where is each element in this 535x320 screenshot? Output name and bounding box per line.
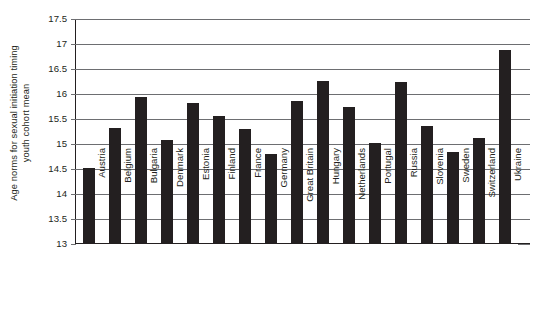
y-tick-label: 15 xyxy=(0,138,67,149)
y-tick-mark xyxy=(71,219,76,220)
x-tick-label: Switzerland xyxy=(484,148,500,248)
y-tick-label: 16.5 xyxy=(0,63,67,74)
x-tick-label: Sweden xyxy=(458,148,474,248)
x-tick-label: Germany xyxy=(276,148,292,248)
y-tick-mark xyxy=(71,94,76,95)
y-tick-mark-right xyxy=(518,69,530,70)
y-tick-label: 15.5 xyxy=(0,113,67,124)
x-tick-label: Austria xyxy=(94,148,110,248)
y-tick-label: 13 xyxy=(0,238,67,249)
x-tick-label: Estonia xyxy=(198,148,214,248)
y-axis-line xyxy=(75,19,76,244)
x-tick-label: Bulgaria xyxy=(146,148,162,248)
x-tick-label: Russia xyxy=(406,148,422,248)
y-tick-mark xyxy=(71,194,76,195)
gridline xyxy=(76,44,518,45)
y-tick-mark xyxy=(71,19,76,20)
x-tick-label: Portugal xyxy=(380,148,396,248)
y-tick-mark-right xyxy=(518,19,530,20)
y-tick-mark xyxy=(71,144,76,145)
x-tick-labels: AustriaBelgiumBulgariaDenmarkEstoniaFinl… xyxy=(76,248,518,320)
y-tick-mark-right xyxy=(518,44,530,45)
y-tick-mark xyxy=(71,69,76,70)
x-tick-label: Ukraine xyxy=(510,148,526,248)
x-tick-label: Netherlands xyxy=(354,148,370,248)
x-tick-label: Slovenia xyxy=(432,148,448,248)
y-tick-mark xyxy=(71,119,76,120)
gridline xyxy=(76,19,518,20)
y-tick-mark xyxy=(71,44,76,45)
y-tick-label: 17.5 xyxy=(0,13,67,24)
y-tick-mark-right xyxy=(518,144,530,145)
x-tick-label: Belgium xyxy=(120,148,136,248)
x-tick-label: Finland xyxy=(224,148,240,248)
x-tick-label: Denmark xyxy=(172,148,188,248)
x-tick-label: France xyxy=(250,148,266,248)
y-tick-mark-right xyxy=(518,94,530,95)
bar-chart: Age norms for sexual initiation timing y… xyxy=(0,0,535,320)
y-tick-label: 14 xyxy=(0,188,67,199)
x-tick-label: Hungary xyxy=(328,148,344,248)
gridline xyxy=(76,69,518,70)
y-tick-mark-right xyxy=(518,119,530,120)
x-tick-label: Great Britain xyxy=(302,148,318,248)
y-tick-label: 17 xyxy=(0,38,67,49)
plot-area xyxy=(76,19,518,244)
y-tick-label: 13.5 xyxy=(0,213,67,224)
y-tick-mark xyxy=(71,169,76,170)
gridline xyxy=(76,94,518,95)
y-tick-label: 16 xyxy=(0,88,67,99)
y-tick-label: 14.5 xyxy=(0,163,67,174)
